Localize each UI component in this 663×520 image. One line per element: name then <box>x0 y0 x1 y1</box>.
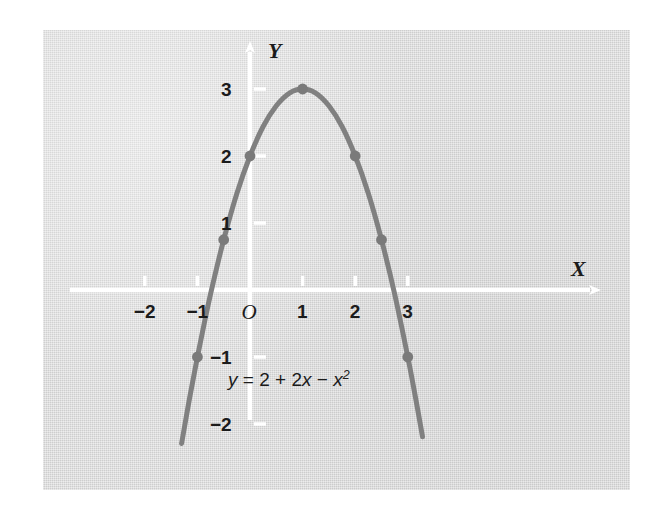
data-point-marker <box>297 84 308 95</box>
data-point-marker <box>245 151 256 162</box>
equation-quadratic-term: x2 <box>333 369 349 390</box>
equation-linear-term: 2x <box>291 369 311 390</box>
parabola-figure: −2−1O123 321−1−2 Y X y = 2 + 2x − x2 <box>0 0 663 520</box>
x-tick-label: 1 <box>297 302 308 321</box>
data-point-marker <box>402 352 413 363</box>
y-tick-label: 3 <box>221 80 232 99</box>
data-point-marker <box>376 234 387 245</box>
x-axis-label: X <box>571 258 586 280</box>
x-tick-label: −2 <box>134 302 156 321</box>
x-tick-label: 2 <box>350 302 361 321</box>
y-axis-label: Y <box>268 40 281 62</box>
x-tick-label: 3 <box>402 302 413 321</box>
equation-constant: 2 <box>259 369 270 390</box>
data-point-marker <box>192 352 203 363</box>
data-point-marker <box>350 151 361 162</box>
equation-annotation: y = 2 + 2x − x2 <box>228 369 350 389</box>
equation-plus: + <box>270 369 292 390</box>
x-tick-label: −1 <box>186 302 208 321</box>
equation-lhs: y <box>228 369 238 390</box>
y-tick-label: 1 <box>221 214 232 233</box>
data-point-marker <box>218 234 229 245</box>
equation-equals: = <box>238 369 260 390</box>
x-axis-ticks <box>145 276 408 286</box>
y-tick-label: −1 <box>210 348 232 367</box>
y-tick-label: 2 <box>221 147 232 166</box>
y-tick-label: −2 <box>210 415 232 434</box>
origin-label: O <box>242 302 257 323</box>
plot-canvas <box>0 0 663 520</box>
equation-minus: − <box>311 369 333 390</box>
